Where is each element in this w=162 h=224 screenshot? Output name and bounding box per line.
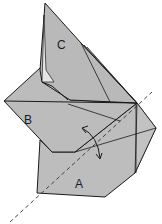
label-a: A: [75, 177, 83, 191]
label-c: C: [57, 38, 66, 52]
diagram-svg: C B A: [0, 0, 162, 224]
label-b: B: [24, 113, 32, 127]
fold-diagram: C B A: [0, 0, 162, 224]
